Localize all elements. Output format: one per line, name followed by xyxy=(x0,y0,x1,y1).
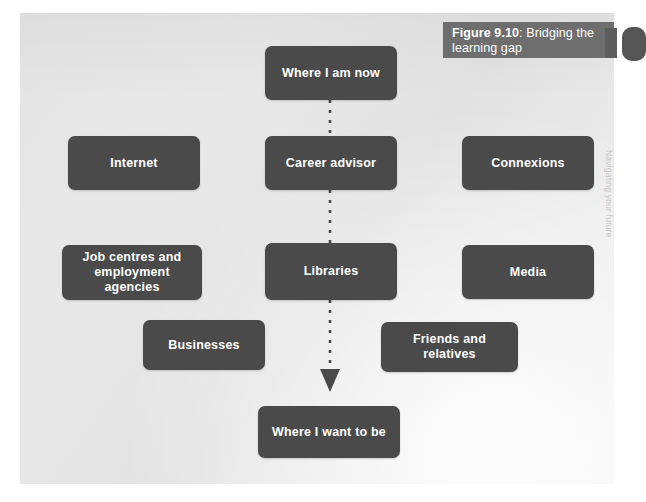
page-thumb-tab xyxy=(605,28,617,58)
figure-caption-number: Figure 9.10 xyxy=(452,26,519,40)
node-where-i-am-now[interactable]: Where I am now xyxy=(265,46,397,100)
node-career-advisor[interactable]: Career advisor xyxy=(265,136,397,190)
margin-running-head: Navigating your future xyxy=(604,150,614,350)
node-internet[interactable]: Internet xyxy=(68,136,200,190)
node-job-centres-and-employment-agencies[interactable]: Job centres and employment agencies xyxy=(62,245,202,300)
node-media[interactable]: Media xyxy=(462,245,594,299)
node-libraries[interactable]: Libraries xyxy=(265,243,397,300)
node-businesses[interactable]: Businesses xyxy=(143,320,265,370)
node-friends-and-relatives[interactable]: Friends and relatives xyxy=(381,322,518,372)
node-where-i-want-to-be[interactable]: Where I want to be xyxy=(258,406,400,458)
page-edge-tab-icon xyxy=(622,27,646,61)
node-connexions[interactable]: Connexions xyxy=(462,136,594,190)
figure-caption: Figure 9.10: Bridging the learning gap xyxy=(443,22,614,58)
